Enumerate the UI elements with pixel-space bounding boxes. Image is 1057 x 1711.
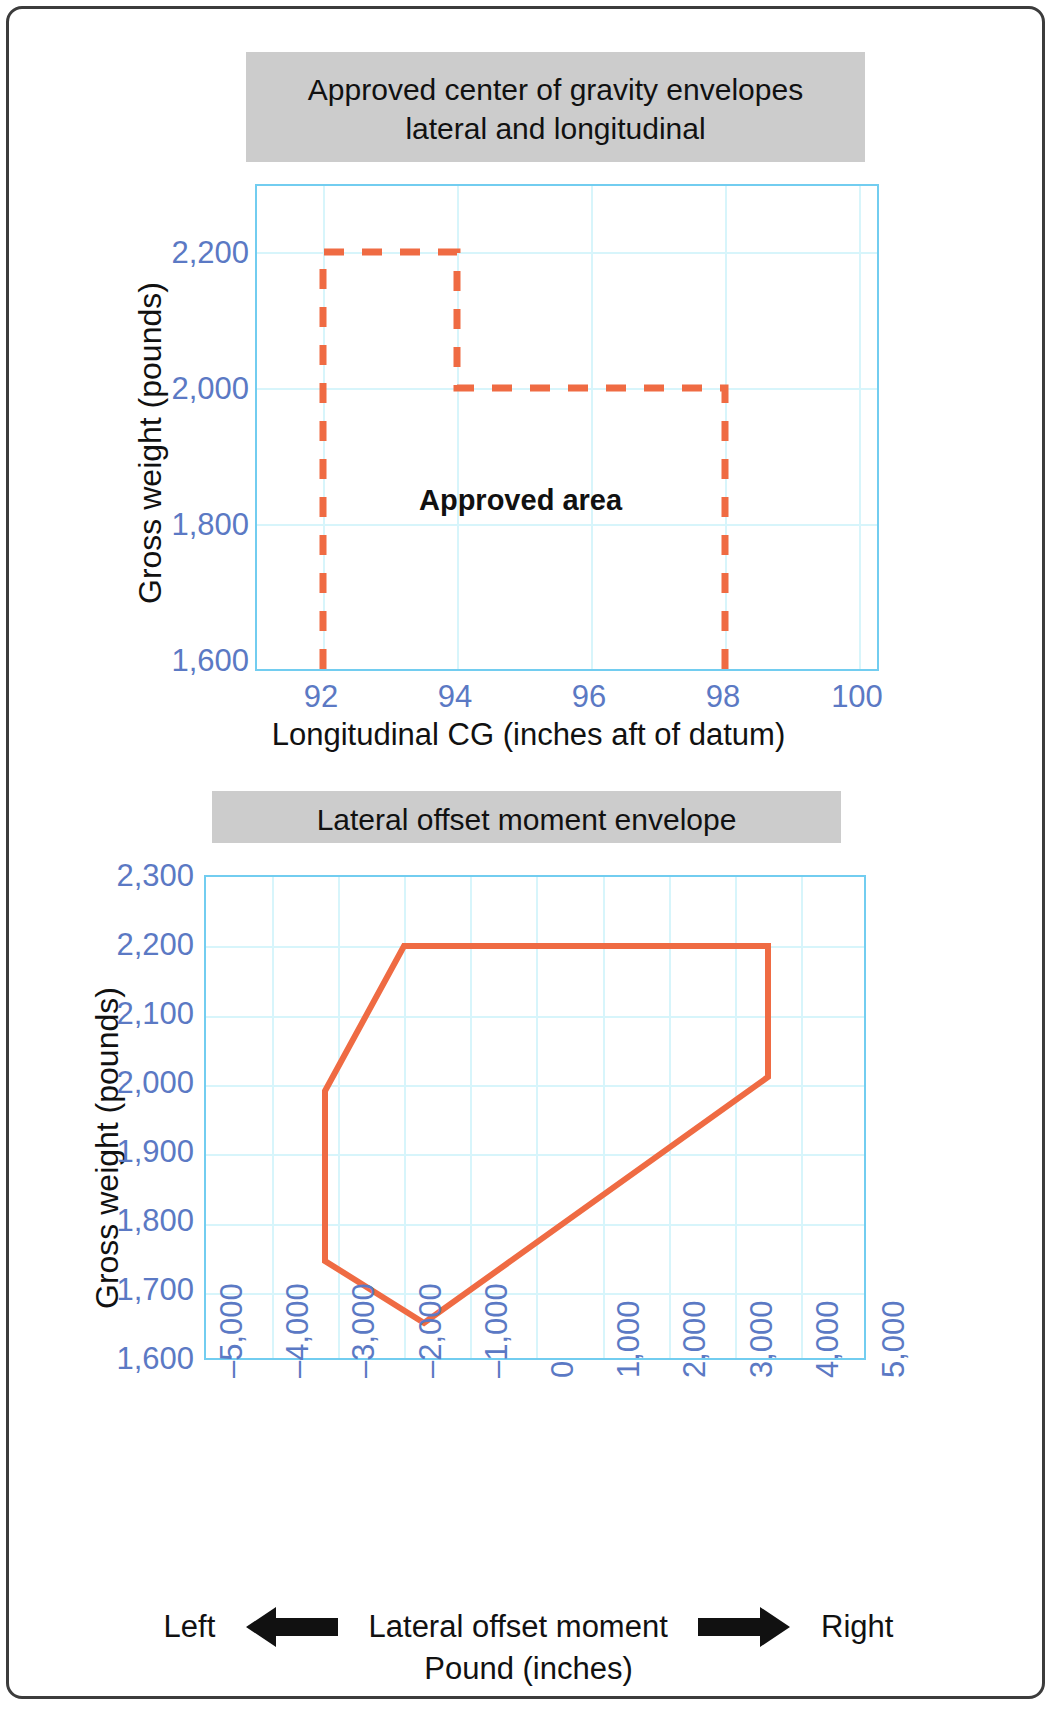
caption-left-label: Left xyxy=(164,1607,216,1647)
chart1-y-tick-2200: 2,200 xyxy=(29,237,249,268)
chart2-title-banner: Lateral offset moment envelope xyxy=(212,791,841,843)
chart2-x-tick-4000: 4,000 xyxy=(812,1300,843,1378)
chart1-title-line2: lateral and longitudinal xyxy=(246,109,865,148)
chart2-y-tick-1900: 1,900 xyxy=(6,1136,194,1167)
chart1-y-axis-title: Gross weight (pounds) xyxy=(134,282,166,604)
chart2-y-tick-2000: 2,000 xyxy=(6,1067,194,1098)
chart2-y-tick-1700: 1,700 xyxy=(6,1274,194,1305)
chart1-plot-area: Approved area xyxy=(255,184,879,671)
chart2-x-tick--4000: –4,000 xyxy=(282,1283,313,1378)
chart1-title-line1: Approved center of gravity envelopes xyxy=(246,70,865,109)
caption-right-label: Right xyxy=(821,1607,893,1647)
chart1-envelope-path xyxy=(257,186,881,673)
figure-page: Approved center of gravity envelopes lat… xyxy=(6,6,1045,1699)
arrow-left-icon xyxy=(246,1605,338,1649)
chart2-x-tick-2000: 2,000 xyxy=(679,1300,710,1378)
chart2-y-tick-1800: 1,800 xyxy=(6,1205,194,1236)
chart1-approved-area-label: Approved area xyxy=(419,484,622,517)
chart2-x-tick-1000: 1,000 xyxy=(613,1300,644,1378)
chart2-title-text: Lateral offset moment envelope xyxy=(317,803,737,836)
chart2-y-tick-2200: 2,200 xyxy=(6,929,194,960)
chart1-y-tick-1600: 1,600 xyxy=(29,645,249,676)
chart2-x-tick--2000: –2,000 xyxy=(415,1283,446,1378)
chart1-y-tick-2000: 2,000 xyxy=(29,373,249,404)
caption-center-label: Lateral offset moment xyxy=(369,1607,668,1647)
chart2-x-axis-caption-line2: Pound (inches) xyxy=(9,1649,1045,1689)
chart2-x-tick-0: 0 xyxy=(547,1361,578,1378)
chart1-x-tick-100: 100 xyxy=(777,681,937,712)
arrow-right-icon xyxy=(698,1605,790,1649)
chart2-x-tick-5000: 5,000 xyxy=(878,1300,909,1378)
chart2-x-tick-3000: 3,000 xyxy=(746,1300,777,1378)
chart2-y-tick-2300: 2,300 xyxy=(6,860,194,891)
chart1-y-tick-1800: 1,800 xyxy=(29,509,249,540)
chart2-x-tick--3000: –3,000 xyxy=(348,1283,379,1378)
chart1-title-banner: Approved center of gravity envelopes lat… xyxy=(246,52,865,162)
chart1-x-axis-title: Longitudinal CG (inches aft of datum) xyxy=(9,717,1045,753)
chart2-y-tick-2100: 2,100 xyxy=(6,998,194,1029)
chart2-x-tick--5000: –5,000 xyxy=(216,1283,247,1378)
chart2-x-axis-caption: Left Lateral offset moment Right xyxy=(9,1605,1045,1649)
chart2-y-tick-1600: 1,600 xyxy=(6,1343,194,1374)
chart2-x-tick--1000: –1,000 xyxy=(481,1283,512,1378)
